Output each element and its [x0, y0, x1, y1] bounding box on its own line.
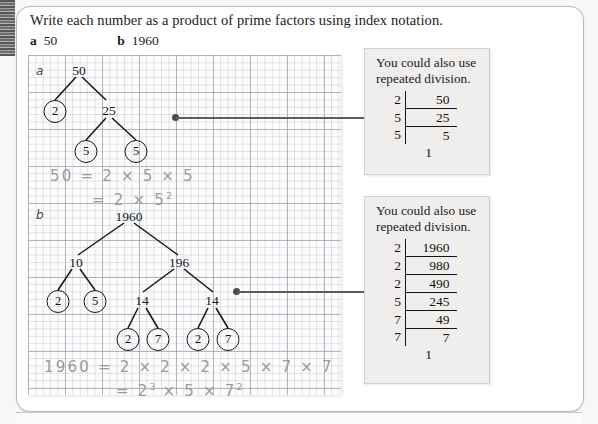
question-a-number: 50	[44, 33, 58, 48]
question-b-letter: b	[117, 33, 125, 48]
division-ladder-b: 2 1960 2 980 2 490 5 245 7 49 7 7	[385, 239, 457, 363]
ladder-row: 2 490	[385, 275, 457, 293]
note-a-text: You could also use repeated division.	[365, 49, 489, 89]
ladder-divisor: 2	[385, 257, 406, 275]
note-box-a: You could also use repeated division. 2 …	[364, 48, 490, 175]
ladder-final-row: 1	[385, 144, 457, 161]
ladder-row: 5 25	[385, 109, 457, 127]
ladder-final-spacer	[385, 346, 406, 363]
ladder-divisor: 7	[385, 311, 406, 329]
question-list: a50b1960	[30, 33, 159, 49]
squared-paper-panel: a 50 2 25 5 5 50 = 2 × 5 × 5 = 2 × 52 b …	[28, 55, 341, 395]
ladder-value: 245	[406, 293, 457, 311]
tree-b-prime-7-a: 7	[147, 328, 170, 351]
ladder-row: 7 49	[385, 311, 457, 329]
page-title: Write each number as a product of prime …	[30, 12, 443, 29]
tree-a-prime-5-left: 5	[75, 140, 98, 163]
part-a-working-line-2: = 2 × 52	[92, 190, 172, 209]
note-box-b: You could also use repeated division. 2 …	[364, 196, 490, 384]
ladder-final-value: 1	[406, 144, 457, 161]
note-b-line-2: repeated division.	[376, 219, 480, 235]
ladder-final-row: 1	[385, 346, 457, 363]
factor-tree-branches	[28, 55, 341, 395]
ladder-divisor: 5	[385, 293, 406, 311]
part-b-working-line-1: 1960 = 2 × 2 × 2 × 5 × 7 × 7	[44, 358, 334, 376]
ladder-row: 5 5	[385, 127, 457, 145]
part-a-label: a	[36, 64, 43, 78]
book-binding-strip	[0, 0, 15, 56]
ladder-value: 25	[406, 109, 457, 127]
question-a-letter: a	[30, 33, 37, 48]
ladder-row: 2 50	[385, 91, 457, 109]
part-b-label: b	[36, 208, 44, 222]
tree-b-node-14-left: 14	[135, 293, 149, 309]
ladder-divisor: 5	[385, 127, 406, 145]
tree-b-node-14-right: 14	[205, 293, 219, 309]
note-b-line-1: You could also use	[376, 203, 480, 219]
part-b-working-line-2: = 23 × 5 × 72	[116, 381, 242, 400]
tree-a-prime-5-right: 5	[125, 140, 148, 163]
ladder-divisor: 2	[385, 91, 406, 109]
note-a-line-1: You could also use	[376, 55, 480, 71]
tree-b-prime-5: 5	[84, 290, 107, 313]
part-b-working-2-exp2: 2	[236, 381, 242, 392]
ladder-value: 50	[406, 91, 457, 109]
part-a-working-2-exponent: 2	[166, 190, 172, 201]
tree-a-prime-2: 2	[44, 100, 67, 123]
tree-b-prime-2-c: 2	[187, 328, 210, 351]
tree-b-prime-2-a: 2	[47, 290, 70, 313]
ladder-divisor: 5	[385, 109, 406, 127]
ladder-final-value: 1	[406, 346, 457, 363]
ladder-divisor: 2	[385, 239, 406, 257]
part-a-working-2-prefix: = 2 × 5	[92, 191, 166, 209]
division-ladder-a: 2 50 5 25 5 5 1	[385, 91, 457, 161]
ladder-value: 1960	[406, 239, 457, 257]
ladder-divisor: 7	[385, 329, 406, 347]
ladder-row: 7 7	[385, 329, 457, 347]
ladder-row: 2 980	[385, 257, 457, 275]
note-a-line-2: repeated division.	[376, 71, 480, 87]
ladder-value: 7	[406, 329, 457, 347]
tree-b-node-10: 10	[69, 255, 83, 271]
leader-line-a	[176, 117, 364, 119]
page-bottom-edge	[16, 412, 582, 423]
tree-a-root: 50	[72, 63, 86, 79]
tree-b-prime-2-b: 2	[117, 328, 140, 351]
ladder-final-spacer	[385, 144, 406, 161]
part-a-working-line-1: 50 = 2 × 5 × 5	[50, 167, 195, 185]
part-b-working-2-mid: × 5 × 7	[156, 382, 237, 400]
ladder-row: 5 245	[385, 293, 457, 311]
note-b-text: You could also use repeated division.	[365, 197, 489, 237]
ladder-value: 49	[406, 311, 457, 329]
tree-a-node-25: 25	[102, 103, 116, 119]
question-b-number: 1960	[132, 33, 159, 48]
part-b-working-2-prefix: = 2	[116, 382, 149, 400]
ladder-value: 5	[406, 127, 457, 145]
ladder-divisor: 2	[385, 275, 406, 293]
ladder-value: 980	[406, 257, 457, 275]
tree-b-node-196: 196	[169, 255, 189, 271]
tree-b-root: 1960	[116, 209, 143, 225]
leader-line-b	[237, 291, 364, 293]
tree-b-prime-7-b: 7	[217, 328, 240, 351]
ladder-row: 2 1960	[385, 239, 457, 257]
ladder-value: 490	[406, 275, 457, 293]
worksheet-page: Write each number as a product of prime …	[0, 0, 598, 424]
